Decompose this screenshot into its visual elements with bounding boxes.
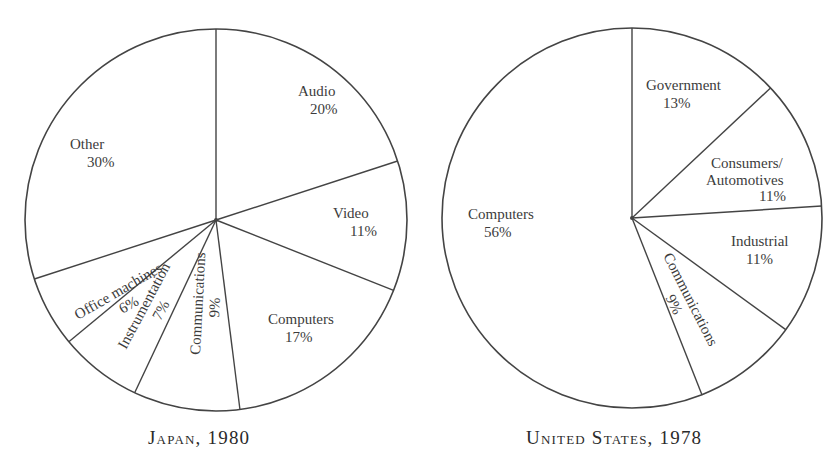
slice-name: Audio (298, 83, 336, 99)
slice-name: Computers (268, 311, 334, 327)
slice-name: Government (646, 77, 722, 93)
slice-label-communications: Communications9% (187, 252, 225, 356)
slice-name: Industrial (731, 233, 789, 249)
slice-label-other: Other30% (70, 136, 115, 170)
chart-stage: Audio20%Video11%Computers17%Communicatio… (0, 0, 834, 465)
slice-label-computers: Computers56% (468, 206, 534, 240)
slice-percent: 30% (87, 154, 115, 170)
pie-charts-canvas: Audio20%Video11%Computers17%Communicatio… (0, 0, 834, 465)
pie-chart-united-states: Government13%Consumers/Automotives11%Ind… (442, 28, 822, 408)
slice-label-government: Government13% (646, 77, 722, 111)
slice-divider-industrial (632, 206, 822, 218)
slice-label-industrial: Industrial11% (731, 233, 789, 267)
slice-name: Video (333, 205, 369, 221)
slice-percent: 13% (663, 95, 691, 111)
caption-united-states-1978: United States, 1978 (526, 427, 702, 449)
slice-label-communications: Communications9% (645, 250, 721, 356)
pie-center-dot (630, 216, 634, 220)
slice-percent: 11% (746, 251, 773, 267)
slice-name: Communications (187, 252, 208, 355)
slice-divider-other (34, 220, 216, 279)
caption-japan-1980: Japan, 1980 (148, 427, 250, 449)
slice-percent: 11% (350, 223, 377, 239)
slice-name: Consumers/ (711, 155, 784, 171)
slice-name: Other (70, 136, 104, 152)
slice-percent: 56% (484, 224, 512, 240)
slice-divider-video (216, 161, 398, 220)
slice-percent: 17% (285, 329, 313, 345)
slice-label-audio: Audio20% (298, 83, 338, 117)
slice-name-line2: Automotives (706, 172, 784, 188)
slice-divider-consumers-automotives (632, 88, 771, 218)
pie-chart-japan: Audio20%Video11%Computers17%Communicatio… (25, 29, 407, 411)
slice-percent: 11% (759, 188, 786, 204)
pie-center-dot (214, 218, 218, 222)
slice-label-consumers-automotives: Consumers/Automotives11% (706, 155, 786, 204)
slice-percent: 9% (206, 297, 223, 318)
slice-label-computers: Computers17% (268, 311, 334, 345)
slice-percent: 20% (310, 101, 338, 117)
slice-name: Computers (468, 206, 534, 222)
slice-label-video: Video11% (333, 205, 377, 239)
